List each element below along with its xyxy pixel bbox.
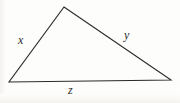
triangle-figure: x y z [0, 0, 180, 103]
side-label-x: x [18, 34, 23, 46]
triangle-outline [9, 7, 171, 82]
side-label-z: z [68, 84, 73, 96]
triangle-shape [0, 0, 180, 103]
side-label-y: y [124, 29, 129, 41]
